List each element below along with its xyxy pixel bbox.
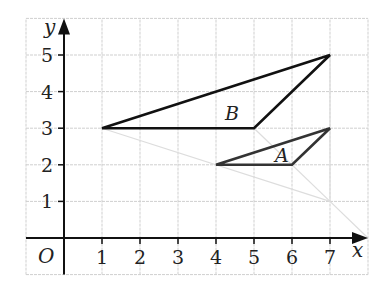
x-tick-label: 7: [324, 246, 336, 268]
x-tick-label: 6: [286, 246, 298, 268]
x-tick-label: 4: [210, 246, 222, 268]
shape-label-b: B: [224, 102, 239, 124]
origin-label: O: [38, 244, 54, 268]
enlargement-diagram: 123456712345 x y O B A: [0, 0, 381, 286]
shape-label-a: A: [273, 144, 289, 166]
grid: [26, 18, 368, 274]
x-tick-label: 1: [96, 246, 108, 268]
axes: 123456712345: [26, 18, 368, 274]
x-tick-label: 3: [172, 246, 184, 268]
triangle-a: [216, 128, 330, 165]
x-tick-label: 2: [134, 246, 146, 268]
y-tick-label: 1: [41, 190, 53, 212]
y-tick-label: 4: [41, 81, 53, 103]
y-axis-arrow-icon: [58, 18, 70, 34]
y-axis-label: y: [43, 15, 56, 39]
y-tick-label: 3: [41, 117, 53, 139]
y-tick-label: 2: [41, 154, 53, 176]
x-axis-label: x: [352, 238, 363, 262]
y-tick-label: 5: [41, 44, 53, 66]
construction-line: [330, 201, 368, 238]
x-tick-label: 5: [248, 246, 260, 268]
construction-lines: [102, 55, 368, 238]
